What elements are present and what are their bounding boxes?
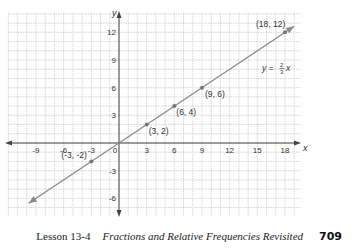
lesson-title: Fractions and Relative Frequencies Revis… [102,230,303,242]
svg-text:2: 2 [280,62,284,68]
y-tick-label: -3 [109,167,117,176]
data-point-label: (18, 12) [256,19,285,29]
x-tick-label: 15 [253,146,262,155]
data-point-label: (6, 4) [176,107,196,117]
data-point-label: (3, 2) [149,126,169,136]
line-arrow-start-icon [29,196,37,203]
coordinate-graph: -9-6-3036912151812963-3-6 (-3, -2)(3, 2)… [0,0,352,225]
lesson-number: Lesson 13-4 [36,230,90,242]
x-tick-label: 3 [144,146,149,155]
x-tick-label: -3 [88,146,96,155]
y-tick-label: 3 [112,111,117,120]
x-tick-label: -9 [32,146,40,155]
data-point [200,86,204,90]
line-arrow-end-icon [286,26,294,33]
grid-lines [8,13,301,216]
y-tick-label: 9 [112,56,117,65]
page-footer: Lesson 13-4 Fractions and Relative Frequ… [0,226,342,244]
line-y-equals-two-thirds-x [29,26,295,203]
x-axis-label: x [302,143,308,153]
x-axis-right-arrow-icon [294,141,301,146]
data-point [283,30,287,34]
x-tick-label: 9 [200,146,205,155]
data-point-label: (-3, -2) [61,150,87,160]
data-point-label: (9, 6) [205,89,225,99]
y-axis-up-arrow-icon [117,11,122,18]
y-tick-label: 6 [112,84,117,93]
x-tick-label: 12 [225,146,234,155]
page-number: 709 [319,230,342,243]
axes [5,11,301,217]
plot-line [29,26,295,203]
x-tick-label: 18 [281,146,290,155]
svg-text:x: x [285,63,291,73]
y-tick-label: 12 [107,28,116,37]
svg-text:3: 3 [280,69,284,75]
y-tick-label: -6 [109,194,117,203]
x-tick-label: 6 [172,146,177,155]
data-point [89,159,93,163]
y-axis-label: y [111,8,117,18]
svg-text:y =: y = [261,63,274,73]
y-axis-down-arrow-icon [117,210,122,217]
